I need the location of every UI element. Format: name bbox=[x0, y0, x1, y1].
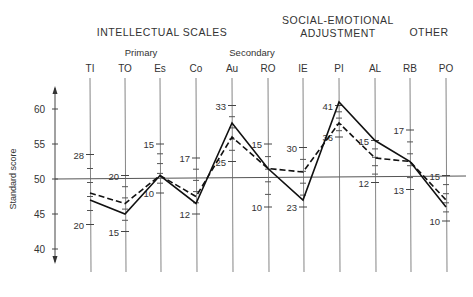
raw-score-label: 28 bbox=[73, 150, 84, 161]
group-intellectual-scales: INTELLECTUAL SCALES bbox=[97, 26, 228, 38]
category-axis bbox=[90, 78, 91, 272]
category-axis bbox=[339, 78, 340, 272]
raw-score-label: 17 bbox=[179, 153, 190, 164]
raw-score-label: 10 bbox=[429, 216, 440, 227]
raw-score-label: 41 bbox=[322, 101, 333, 112]
arrow-down-icon bbox=[53, 256, 58, 264]
y-tick-label: 55 bbox=[34, 139, 46, 150]
category-axis bbox=[232, 78, 233, 272]
category-axis bbox=[410, 78, 411, 272]
category-label: TI bbox=[86, 63, 95, 74]
group-adjustment: ADJUSTMENT bbox=[300, 27, 376, 39]
raw-score-label: 12 bbox=[179, 209, 190, 220]
raw-score-label: 10 bbox=[143, 188, 154, 199]
raw-score-label: 15 bbox=[143, 139, 154, 150]
category-axis bbox=[303, 78, 304, 272]
category-label: TO bbox=[118, 63, 132, 74]
raw-score-label: 15 bbox=[108, 227, 119, 238]
category-label: PI bbox=[334, 63, 343, 74]
category-label: IE bbox=[298, 63, 308, 74]
y-axis-label: Standard score bbox=[8, 148, 18, 209]
raw-score-label: 33 bbox=[215, 101, 226, 112]
raw-score-label: 20 bbox=[108, 171, 119, 182]
category-label: RB bbox=[403, 63, 417, 74]
category-axis bbox=[375, 78, 376, 272]
subgroup-primary: Primary bbox=[125, 47, 158, 58]
group-other: OTHER bbox=[409, 26, 448, 38]
category-label: RO bbox=[261, 63, 276, 74]
chart-canvas: 4045505560Standard scoreTI2820TO2015Es15… bbox=[0, 0, 473, 297]
raw-score-label: 20 bbox=[73, 220, 84, 231]
y-tick-label: 60 bbox=[34, 104, 46, 115]
raw-score-label: 10 bbox=[251, 202, 262, 213]
raw-score-label: 13 bbox=[393, 185, 404, 196]
category-axis bbox=[268, 78, 269, 272]
arrow-up-icon bbox=[53, 86, 58, 94]
raw-score-label: 15 bbox=[429, 171, 440, 182]
y-tick-label: 50 bbox=[34, 174, 46, 185]
profile-chart: 4045505560Standard scoreTI2820TO2015Es15… bbox=[0, 0, 473, 297]
category-label: Co bbox=[190, 63, 203, 74]
category-label: Au bbox=[226, 63, 238, 74]
category-label: AL bbox=[369, 63, 382, 74]
raw-score-label: 30 bbox=[286, 143, 297, 154]
raw-score-label: 17 bbox=[393, 125, 404, 136]
raw-score-label: 12 bbox=[358, 178, 369, 189]
category-label: Es bbox=[154, 63, 166, 74]
raw-score-label: 15 bbox=[358, 136, 369, 147]
subgroup-secondary: Secondary bbox=[229, 47, 275, 58]
group-social-emotional: SOCIAL-EMOTIONAL bbox=[282, 14, 394, 26]
raw-score-label: 23 bbox=[286, 202, 297, 213]
category-label: PO bbox=[439, 63, 454, 74]
category-axis bbox=[196, 78, 197, 272]
y-tick-label: 40 bbox=[34, 244, 46, 255]
y-tick-label: 45 bbox=[34, 209, 46, 220]
